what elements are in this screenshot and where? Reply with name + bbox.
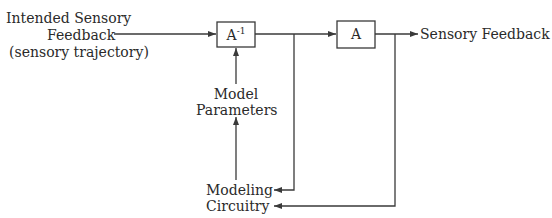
feedback-tap-line xyxy=(274,34,395,206)
input-label-line1: Intended Sensory xyxy=(6,10,112,26)
inverse-model-superscript: -1 xyxy=(237,26,246,36)
modeling-circuitry-line2: Circuitry xyxy=(206,198,269,214)
model-parameters-line1: Model xyxy=(196,86,276,102)
input-label-line2: Feedback xyxy=(47,27,115,43)
output-label: Sensory Feedback xyxy=(420,26,550,42)
plant-label: A xyxy=(337,26,375,42)
input-label: Intended Sensory xyxy=(6,10,112,26)
modeling-circuitry-line1: Modeling xyxy=(206,182,273,198)
inverse-model-base: A xyxy=(227,27,237,43)
model-parameters-line2: Parameters xyxy=(196,102,276,118)
input-label-line3: (sensory trajectory) xyxy=(9,44,149,60)
inverse-model-label: A-1 xyxy=(217,26,255,43)
